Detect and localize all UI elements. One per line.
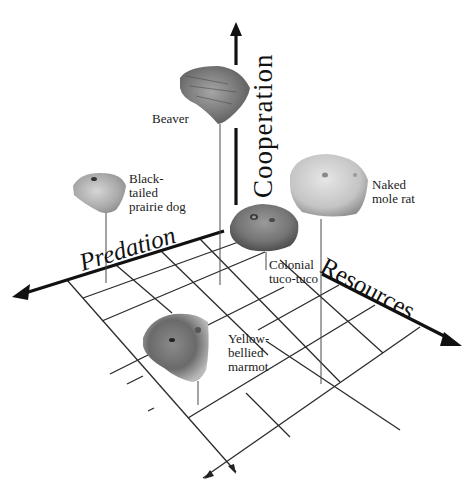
beaver-head-icon xyxy=(180,66,250,124)
marmot-head-icon xyxy=(143,314,209,382)
beaver-label: Beaver xyxy=(152,112,189,126)
cooperation-arrow-icon xyxy=(230,22,242,36)
mole-rat-label: Naked mole rat xyxy=(372,178,415,206)
prairie-dog-label: Black- tailed prairie dog xyxy=(129,172,186,214)
marmot-label: Yellow- bellied marmot xyxy=(228,332,269,374)
mole-rat-head-icon xyxy=(290,154,368,217)
cooperation-axis-label: Cooperation xyxy=(248,54,279,198)
diagram-svg xyxy=(0,0,467,493)
predation-arrow-icon xyxy=(12,284,30,300)
tuco-tuco-head-icon xyxy=(230,204,298,251)
diagram-canvas: Cooperation Predation Resources Beaver B… xyxy=(0,0,467,493)
prairie-dog-head-icon xyxy=(73,173,126,213)
grid-arrow-right-icon xyxy=(228,464,236,474)
tuco-tuco-label: Colonial tuco-tuco xyxy=(269,258,318,286)
